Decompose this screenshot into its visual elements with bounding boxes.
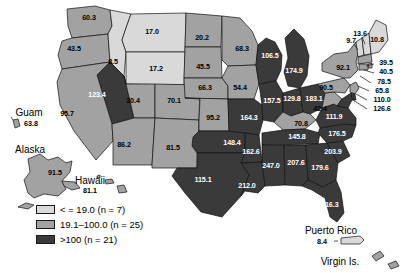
leader-line-RI xyxy=(364,70,374,73)
state-value-TX: 115.1 xyxy=(194,176,211,183)
state-value-OH: 183.1 xyxy=(305,95,323,102)
state-value-NY: 92.1 xyxy=(336,64,350,71)
state-value-ID: 8.5 xyxy=(108,58,118,65)
leader-line-GU xyxy=(11,117,13,120)
state-value-WI: 106.5 xyxy=(261,52,279,59)
legend-swatch-low xyxy=(36,205,55,214)
state-value-AZ: 86.2 xyxy=(117,141,131,148)
state-value-IN: 129.8 xyxy=(283,95,301,102)
state-value-FL: 116.3 xyxy=(321,201,338,208)
callout-value-CT: 78.5 xyxy=(377,78,391,85)
callout-value-MD: 126.6 xyxy=(373,105,391,112)
callout-value-DE: 110.0 xyxy=(373,96,390,103)
state-MN xyxy=(222,16,258,66)
state-value-AR: 162.6 xyxy=(242,148,260,155)
leader-line-CT xyxy=(360,76,371,83)
state-NY xyxy=(322,42,359,78)
territory-name-puerto-rico: Puerto Rico xyxy=(305,226,357,236)
state-value-MS: 247.0 xyxy=(262,162,280,169)
state-value-VA: 111.9 xyxy=(326,113,343,120)
legend-row-mid: 19.1–100.0 (n = 25) xyxy=(36,217,186,232)
state-value-NH: 13.6 xyxy=(353,30,367,37)
leader-line-NJ xyxy=(358,86,369,91)
state-value-IL: 157.5 xyxy=(263,97,281,104)
state-value-UT: 30.4 xyxy=(126,97,140,104)
legend-row-low: < = 19.0 (n = 7) xyxy=(36,202,186,217)
state-value-CO: 70.1 xyxy=(167,97,181,104)
state-value-GA: 179.6 xyxy=(311,164,329,171)
legend-label-high: >100 (n = 21) xyxy=(60,235,117,245)
state-value-SC: 203.9 xyxy=(324,148,342,155)
legend-row-high: >100 (n = 21) xyxy=(36,232,186,247)
state-value-WV: 42.4 xyxy=(313,105,327,112)
state-value-ND: 20.2 xyxy=(195,34,209,41)
state-value-PA: 90.5 xyxy=(319,84,333,91)
territory-value-hawaii: 81.1 xyxy=(83,187,97,194)
territory-name-hawaii: Hawaii xyxy=(75,176,105,186)
state-value-OR: 43.5 xyxy=(67,45,81,52)
legend-swatch-mid xyxy=(36,220,55,229)
callout-value-RI: 40.5 xyxy=(379,68,393,75)
state-value-LA: 212.0 xyxy=(238,182,256,189)
state-CT xyxy=(359,64,368,70)
state-value-KS: 95.2 xyxy=(206,114,220,121)
callout-value-NJ: 65.8 xyxy=(375,87,389,94)
state-value-WY: 17.2 xyxy=(149,65,163,72)
state-value-MN: 68.3 xyxy=(235,45,249,52)
territory-value-alaska: 91.5 xyxy=(48,169,62,176)
state-value-IA: 54.4 xyxy=(233,84,247,91)
territory-name-virgin-is: Virgin Is. xyxy=(321,257,360,267)
state-value-NM: 81.5 xyxy=(166,144,180,151)
state-value-MI: 174.9 xyxy=(285,67,303,74)
territory-PR xyxy=(341,236,364,244)
territory-VI-1 xyxy=(372,251,384,261)
territory-name-guam: Guam xyxy=(15,108,42,118)
state-value-NE: 66.3 xyxy=(198,84,212,91)
state-value-NV: 123.4 xyxy=(88,91,106,98)
state-value-AL: 207.6 xyxy=(287,159,305,166)
state-value-VT: 9.7 xyxy=(346,37,356,44)
state-value-SD: 45.5 xyxy=(196,63,210,70)
state-value-TN: 145.8 xyxy=(288,133,306,140)
territory-HI-3 xyxy=(117,185,127,193)
state-value-MT: 17.0 xyxy=(145,28,159,35)
leader-line-DE xyxy=(356,94,367,100)
legend-swatch-high xyxy=(36,235,55,244)
state-value-OK: 148.4 xyxy=(223,139,241,146)
state-value-WA: 60.3 xyxy=(82,14,96,21)
legend-label-low: < = 19.0 (n = 7) xyxy=(60,205,125,215)
callout-value-MA: 39.5 xyxy=(379,59,393,66)
territory-value-guam: 63.8 xyxy=(24,120,38,127)
territory-HI-2 xyxy=(105,179,114,184)
state-value-MO: 164.3 xyxy=(240,114,258,121)
us-map-figure: 60.343.58.517.017.2123.495.730.470.186.2… xyxy=(0,0,403,273)
territory-VI-2 xyxy=(388,261,399,269)
state-value-CA: 95.7 xyxy=(60,110,74,117)
territory-name-alaska: Alaska xyxy=(15,145,45,155)
territory-AK-island xyxy=(18,203,34,209)
state-value-NC: 176.5 xyxy=(328,130,346,137)
territory-value-puerto-rico: 8.4 xyxy=(317,238,327,245)
leader-line-MD xyxy=(353,100,367,109)
state-value-ME: 10.8 xyxy=(370,36,384,43)
state-NJ xyxy=(350,82,359,94)
state-WI xyxy=(256,38,282,84)
state-MI xyxy=(284,29,309,88)
state-value-KY: 70.8 xyxy=(294,120,308,127)
map-legend: < = 19.0 (n = 7) 19.1–100.0 (n = 25) >10… xyxy=(36,202,186,247)
territory-GU xyxy=(13,119,20,128)
legend-label-mid: 19.1–100.0 (n = 25) xyxy=(60,220,143,230)
